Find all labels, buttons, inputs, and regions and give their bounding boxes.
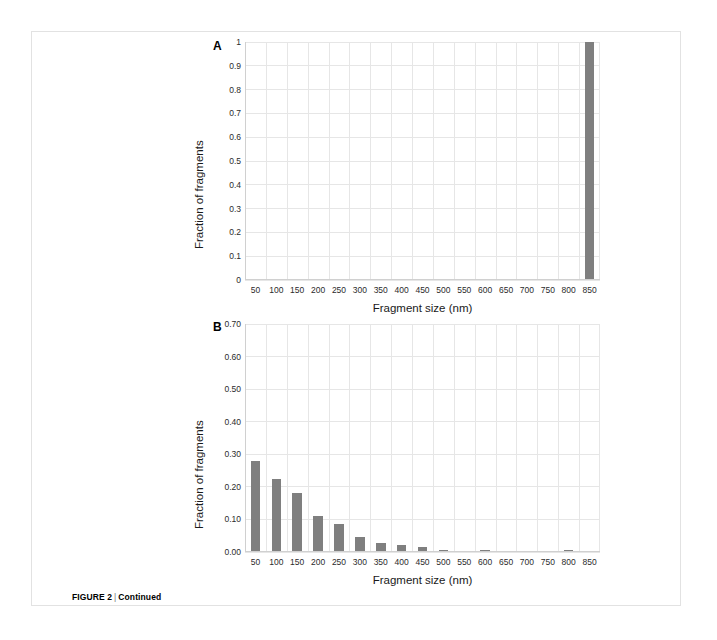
- y-tick-label: 0.1: [229, 252, 241, 261]
- bar: [292, 493, 302, 552]
- x-tick-label: 100: [269, 557, 283, 567]
- x-tick-label: 450: [415, 557, 429, 567]
- y-tick-label: 0.50: [224, 385, 241, 394]
- figure-caption-label: FIGURE 2: [72, 592, 112, 602]
- y-tick-label: 0.9: [229, 62, 241, 71]
- plot-area-a: [245, 42, 600, 280]
- bar: [334, 524, 344, 552]
- y-tick-label: 0.60: [224, 352, 241, 361]
- x-tick-label: 400: [395, 285, 409, 295]
- x-tick-label: 500: [436, 557, 450, 567]
- y-tick-label: 0.8: [229, 85, 241, 94]
- x-tick-label: 650: [499, 557, 513, 567]
- figure-caption: FIGURE 2|Continued: [72, 592, 161, 602]
- y-tick-label: 0.5: [229, 157, 241, 166]
- x-tick-label: 700: [520, 285, 534, 295]
- x-axis-line-a: [245, 279, 600, 280]
- y-tick-label: 1: [236, 38, 241, 47]
- y-tick-label: 0.10: [224, 515, 241, 524]
- y-tick-label: 0.2: [229, 228, 241, 237]
- x-tick-label: 450: [415, 285, 429, 295]
- x-tick-label: 300: [353, 557, 367, 567]
- x-tick-label: 200: [311, 557, 325, 567]
- x-tick-label: 600: [478, 285, 492, 295]
- plot-area-b: [245, 324, 600, 552]
- x-tick-label: 750: [541, 285, 555, 295]
- x-tick-label: 800: [562, 557, 576, 567]
- document-page: A Fraction of fragments 00.10.20.30.40.5…: [31, 31, 681, 606]
- x-tick-label: 850: [582, 557, 596, 567]
- x-tick-label: 800: [562, 285, 576, 295]
- x-axis-ticks-a: 5010015020025030035040045050055060065070…: [245, 285, 600, 299]
- x-tick-label: 50: [251, 557, 260, 567]
- x-tick-label: 700: [520, 557, 534, 567]
- x-tick-label: 500: [436, 285, 450, 295]
- x-tick-label: 350: [374, 557, 388, 567]
- y-tick-label: 0.00: [224, 548, 241, 557]
- bar: [585, 42, 595, 280]
- x-axis-line-b: [245, 551, 600, 552]
- x-axis-ticks-b: 5010015020025030035040045050055060065070…: [245, 557, 600, 571]
- chart-panel-b: B Fraction of fragments 0.000.100.200.30…: [177, 314, 677, 586]
- y-tick-label: 0.4: [229, 181, 241, 190]
- y-axis-title-b: Fraction of fragments: [193, 420, 205, 529]
- x-tick-label: 50: [251, 285, 260, 295]
- y-axis-ticks-a: 00.10.20.30.40.50.60.70.80.91: [207, 42, 241, 280]
- y-axis-line-b: [245, 324, 246, 552]
- bar: [251, 461, 261, 552]
- x-tick-label: 350: [374, 285, 388, 295]
- x-tick-label: 750: [541, 557, 555, 567]
- x-tick-label: 650: [499, 285, 513, 295]
- y-tick-label: 0.20: [224, 483, 241, 492]
- x-tick-label: 600: [478, 557, 492, 567]
- x-tick-label: 400: [395, 557, 409, 567]
- y-tick-label: 0.40: [224, 417, 241, 426]
- y-axis-ticks-b: 0.000.100.200.300.400.500.600.70: [207, 324, 241, 552]
- y-tick-label: 0.6: [229, 133, 241, 142]
- y-tick-label: 0: [236, 276, 241, 285]
- bar-series-b: [245, 324, 600, 552]
- x-tick-label: 200: [311, 285, 325, 295]
- y-tick-label: 0.3: [229, 204, 241, 213]
- x-axis-title-a: Fragment size (nm): [245, 302, 600, 314]
- y-axis-line-a: [245, 42, 246, 280]
- x-tick-label: 150: [290, 557, 304, 567]
- y-tick-label: 0.7: [229, 109, 241, 118]
- chart-panel-a: A Fraction of fragments 00.10.20.30.40.5…: [177, 34, 677, 314]
- bar: [272, 479, 282, 552]
- x-tick-label: 150: [290, 285, 304, 295]
- x-tick-label: 250: [332, 285, 346, 295]
- x-tick-label: 550: [457, 557, 471, 567]
- bar: [355, 537, 365, 552]
- x-tick-label: 100: [269, 285, 283, 295]
- y-tick-label: 0.30: [224, 450, 241, 459]
- x-tick-label: 550: [457, 285, 471, 295]
- y-tick-label: 0.70: [224, 320, 241, 329]
- y-axis-title-a: Fraction of fragments: [193, 140, 205, 249]
- x-axis-title-b: Fragment size (nm): [245, 574, 600, 586]
- x-tick-label: 850: [582, 285, 596, 295]
- x-tick-label: 300: [353, 285, 367, 295]
- figure-caption-text: Continued: [118, 592, 161, 602]
- x-tick-label: 250: [332, 557, 346, 567]
- bar: [313, 516, 323, 552]
- bar-series-a: [245, 42, 600, 280]
